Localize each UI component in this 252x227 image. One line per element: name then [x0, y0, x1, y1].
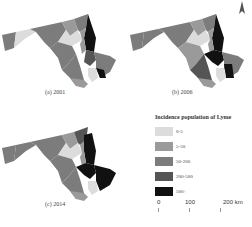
- scale-tick: [220, 208, 221, 212]
- map-panel-a: (a) 2001: [0, 8, 122, 88]
- legend-swatch: [155, 187, 173, 196]
- scale-label-200: 200 km: [223, 199, 243, 205]
- map-panel-b: (b) 2006: [128, 8, 250, 88]
- legend-label: 500+: [176, 189, 186, 194]
- scale-tick: [189, 208, 190, 212]
- legend-item-5-50: 5-50: [155, 142, 245, 152]
- legend-title: Incidence population of Lyme: [155, 114, 231, 120]
- map-panel-c: (c) 2014: [0, 121, 122, 201]
- legend-label: 0-5: [176, 129, 183, 134]
- legend-swatch: [155, 127, 173, 136]
- scale-bar: 0 100 200 km: [155, 199, 252, 217]
- legend-item-200-500: 200-500: [155, 172, 245, 182]
- map-caption-a: (a) 2001: [45, 89, 65, 95]
- legend-label: 200-500: [176, 174, 193, 179]
- legend-swatch: [155, 172, 173, 181]
- maryland-map-a: [0, 8, 122, 88]
- north-arrow: [236, 0, 248, 16]
- map-caption-c: (c) 2014: [45, 201, 65, 207]
- scale-label-100: 100: [185, 199, 195, 205]
- legend-item-50-200: 50-200: [155, 157, 245, 167]
- legend-item-0-5: 0-5: [155, 127, 245, 137]
- legend: Incidence population of Lyme 0-5 5-50 50…: [155, 114, 252, 204]
- map-caption-b: (b) 2006: [172, 89, 193, 95]
- maryland-map-c: [0, 121, 122, 201]
- legend-label: 5-50: [176, 144, 185, 149]
- north-arrow-icon: [236, 0, 248, 16]
- legend-swatch: [155, 142, 173, 151]
- scale-label-0: 0: [157, 199, 160, 205]
- legend-label: 50-200: [176, 159, 190, 164]
- maryland-map-b: [128, 8, 250, 88]
- legend-item-500-plus: 500+: [155, 187, 245, 197]
- scale-tick: [158, 208, 159, 212]
- legend-swatch: [155, 157, 173, 166]
